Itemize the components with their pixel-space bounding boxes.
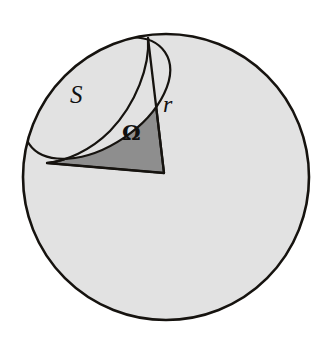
label-solid-angle-omega: Ω (122, 122, 141, 143)
label-radius-r: r (163, 92, 172, 116)
solid-angle-diagram: S r Ω (0, 0, 328, 343)
diagram-canvas (0, 0, 328, 343)
paper-grain-overlay (0, 0, 328, 343)
label-cap-area-S: S (70, 82, 83, 107)
